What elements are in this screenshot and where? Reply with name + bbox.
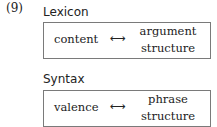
syntax-right-term: phrase structure [132, 91, 204, 125]
syntax-left-term: valence [54, 100, 99, 114]
lexicon-left-term: content [54, 32, 98, 46]
section-label-lexicon: Lexicon [43, 5, 89, 19]
section-label-syntax: Syntax [43, 72, 84, 86]
syntax-box: valence ⟷ phrase structure [43, 90, 211, 127]
lexicon-right-term: argument structure [132, 23, 204, 57]
double-arrow-icon: ⟷ [110, 100, 126, 113]
double-arrow-icon: ⟷ [110, 32, 126, 45]
example-number: (9) [6, 1, 23, 15]
lexicon-box: content ⟷ argument structure [43, 22, 211, 59]
